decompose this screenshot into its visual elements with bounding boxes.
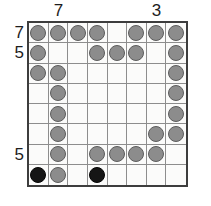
gray-stone[interactable] [50,146,66,162]
gray-stone[interactable] [148,25,164,41]
grid-cell-r6-c8[interactable] [166,124,186,144]
gray-stone[interactable] [128,45,144,61]
gray-stone[interactable] [148,126,164,142]
grid-cell-r3-c8[interactable] [166,64,186,84]
grid-cell-r7-c8[interactable] [166,145,186,165]
grid-cell-r1-c7[interactable] [147,23,167,43]
grid-cell-r3-c1[interactable] [29,64,49,84]
gray-stone[interactable] [109,45,125,61]
gray-stone[interactable] [50,65,66,81]
gray-stone[interactable] [128,25,144,41]
grid-cell-r5-c3[interactable] [68,104,88,124]
left-clue-row-1: 7 [6,24,24,42]
grid-cell-r1-c5[interactable] [108,23,128,43]
grid-cell-r1-c6[interactable] [127,23,147,43]
gray-stone[interactable] [50,167,66,183]
grid-cell-r5-c8[interactable] [166,104,186,124]
grid-cell-r7-c4[interactable] [88,145,108,165]
grid-cell-r5-c6[interactable] [127,104,147,124]
gray-stone[interactable] [168,85,184,101]
grid-cell-r4-c3[interactable] [68,84,88,104]
grid-cell-r8-c4[interactable] [88,165,108,185]
gray-stone[interactable] [30,45,46,61]
grid-frame [27,21,188,187]
grid-cell-r5-c5[interactable] [108,104,128,124]
grid-cell-r6-c1[interactable] [29,124,49,144]
grid-cell-r4-c7[interactable] [147,84,167,104]
grid-cell-r7-c2[interactable] [49,145,69,165]
grid-cell-r6-c4[interactable] [88,124,108,144]
gray-stone[interactable] [50,25,66,41]
grid-cell-r3-c2[interactable] [49,64,69,84]
grid-cell-r4-c4[interactable] [88,84,108,104]
grid-cell-r4-c6[interactable] [127,84,147,104]
grid-cell-r3-c6[interactable] [127,64,147,84]
grid-cell-r5-c1[interactable] [29,104,49,124]
gray-stone[interactable] [70,25,86,41]
grid-cell-r7-c3[interactable] [68,145,88,165]
gray-stone[interactable] [89,25,105,41]
grid-cell-r2-c5[interactable] [108,43,128,63]
grid-cell-r2-c1[interactable] [29,43,49,63]
grid-cell-r7-c5[interactable] [108,145,128,165]
grid-cell-r8-c5[interactable] [108,165,128,185]
grid-cell-r2-c7[interactable] [147,43,167,63]
grid-cell-r8-c6[interactable] [127,165,147,185]
grid-cell-r6-c6[interactable] [127,124,147,144]
grid-cell-r8-c2[interactable] [49,165,69,185]
grid-cell-r5-c4[interactable] [88,104,108,124]
grid-cell-r8-c8[interactable] [166,165,186,185]
black-stone[interactable] [30,167,46,183]
top-clue-col-7: 3 [147,2,167,20]
grid-cell-r4-c8[interactable] [166,84,186,104]
gray-stone[interactable] [168,65,184,81]
gray-stone[interactable] [50,126,66,142]
grid-cell-r3-c3[interactable] [68,64,88,84]
grid-cell-r2-c6[interactable] [127,43,147,63]
grid-cell-r5-c7[interactable] [147,104,167,124]
grid-cell-r2-c4[interactable] [88,43,108,63]
gray-stone[interactable] [30,65,46,81]
gray-stone[interactable] [168,106,184,122]
grid-cell-r4-c1[interactable] [29,84,49,104]
grid-cell-r4-c2[interactable] [49,84,69,104]
grid-cell-r5-c2[interactable] [49,104,69,124]
grid-cell-r1-c1[interactable] [29,23,49,43]
grid-cell-r2-c8[interactable] [166,43,186,63]
gray-stone[interactable] [168,126,184,142]
grid-cell-r6-c3[interactable] [68,124,88,144]
gray-stone[interactable] [50,106,66,122]
grid-cell-r8-c3[interactable] [68,165,88,185]
grid-cell-r6-c2[interactable] [49,124,69,144]
gray-stone[interactable] [109,146,125,162]
grid-cell-r3-c4[interactable] [88,64,108,84]
grid-cell-r1-c8[interactable] [166,23,186,43]
grid-cell-r6-c7[interactable] [147,124,167,144]
grid-cell-r2-c3[interactable] [68,43,88,63]
gray-stone[interactable] [30,25,46,41]
grid-cell-r4-c5[interactable] [108,84,128,104]
grid-cell-r1-c3[interactable] [68,23,88,43]
grid-cell-r6-c5[interactable] [108,124,128,144]
left-clue-row-2: 5 [6,44,24,62]
grid-cell-r3-c5[interactable] [108,64,128,84]
grid-cell-r7-c1[interactable] [29,145,49,165]
grid-cell-r2-c2[interactable] [49,43,69,63]
gray-stone[interactable] [89,45,105,61]
grid-cell-r3-c7[interactable] [147,64,167,84]
grid-cells [29,23,186,185]
grid-cell-r7-c7[interactable] [147,145,167,165]
grid-cell-r1-c2[interactable] [49,23,69,43]
grid-cell-r1-c4[interactable] [88,23,108,43]
black-stone[interactable] [89,167,105,183]
gray-stone[interactable] [148,146,164,162]
gray-stone[interactable] [89,146,105,162]
gray-stone[interactable] [168,45,184,61]
top-clue-col-2: 7 [48,2,68,20]
grid-cell-r7-c6[interactable] [127,145,147,165]
grid-cell-r8-c7[interactable] [147,165,167,185]
grid-cell-r8-c1[interactable] [29,165,49,185]
gray-stone[interactable] [50,85,66,101]
gray-stone[interactable] [168,25,184,41]
gray-stone[interactable] [128,146,144,162]
